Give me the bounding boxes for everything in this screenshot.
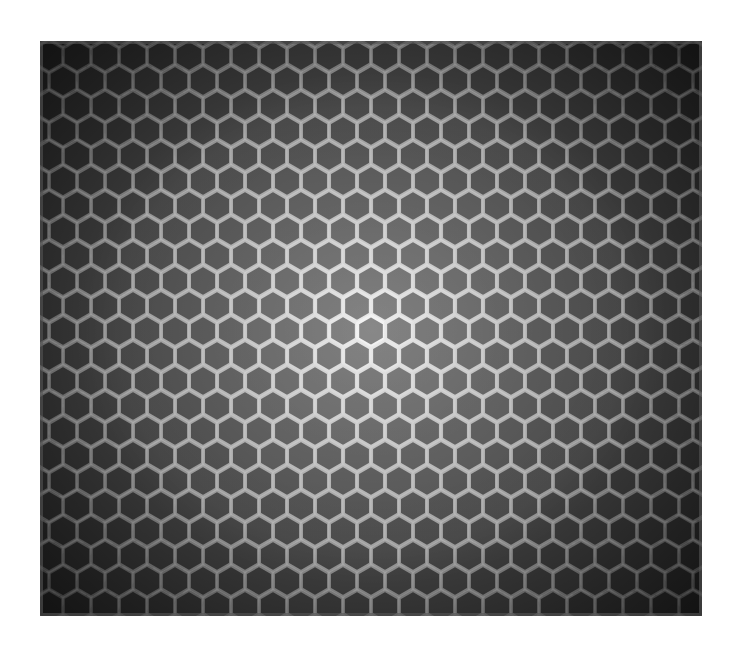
honeycomb-lattice <box>40 41 702 616</box>
honeycomb-photo <box>40 41 702 616</box>
